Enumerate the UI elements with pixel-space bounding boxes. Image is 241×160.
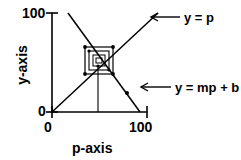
- x-axis-title: p-axis: [72, 141, 112, 155]
- iteration-point: [96, 64, 99, 67]
- iteration-point: [83, 72, 87, 76]
- iteration-point: [107, 68, 110, 71]
- iteration-point: [111, 72, 115, 76]
- y-axis-title: y-axis: [15, 35, 29, 95]
- x-axis-tick-label-0: 0: [44, 120, 52, 134]
- x-axis-tick-label-100: 100: [129, 120, 152, 134]
- annotation-arrow-map: [141, 83, 171, 91]
- y-axis-tick-label-0: 0: [38, 104, 46, 118]
- iteration-point: [111, 45, 115, 49]
- map-line-y-equals-mp-plus-b: [68, 13, 140, 112]
- iteration-point: [83, 45, 87, 49]
- annotation-arrow-identity: [151, 13, 180, 21]
- iteration-point: [125, 91, 129, 95]
- identity-line-label: y = p: [184, 11, 214, 24]
- iteration-point: [87, 49, 90, 52]
- cobweb-diagram-figure: 100 0 0 100 y-axis p-axis y = p y = mp +…: [0, 0, 241, 160]
- map-line-label: y = mp + b: [175, 81, 239, 94]
- y-axis-tick-label-100: 100: [22, 6, 45, 20]
